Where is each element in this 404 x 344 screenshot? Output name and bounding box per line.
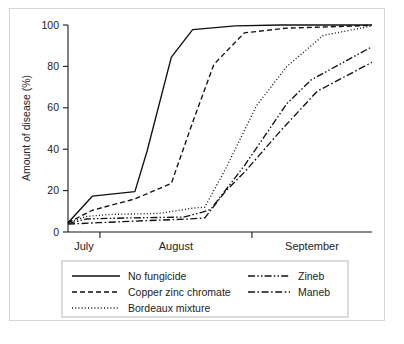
y-axis-tick-labels: 020406080100 — [41, 19, 59, 238]
data-series-group — [68, 25, 372, 224]
x-category-label-august: August — [159, 240, 193, 252]
y-tick-label: 40 — [47, 143, 59, 155]
y-tick-label: 0 — [53, 226, 59, 238]
x-category-label-september: September — [285, 240, 339, 252]
legend: No fungicideCopper zinc chromateBordeaux… — [62, 261, 348, 317]
axes-group: 020406080100 JulyAugustSeptember — [41, 19, 372, 252]
legend-label-no-fungicide: No fungicide — [128, 270, 187, 282]
chart-canvas: 020406080100 JulyAugustSeptember Amount … — [0, 0, 404, 344]
x-axis-ticks — [100, 232, 252, 238]
y-axis-ticks — [63, 25, 68, 232]
y-axis-title: Amount of disease (%) — [20, 75, 32, 181]
x-axis-category-labels: JulyAugustSeptember — [74, 240, 339, 252]
legend-label-copper-zinc-chromate: Copper zinc chromate — [128, 286, 231, 298]
series-line-no-fungicide — [68, 25, 372, 223]
y-tick-label: 100 — [41, 19, 59, 31]
legend-label-zineb: Zineb — [298, 270, 324, 282]
series-line-maneb — [68, 62, 372, 224]
legend-label-maneb: Maneb — [298, 286, 330, 298]
series-line-zineb — [68, 47, 372, 224]
figure-container: 020406080100 JulyAugustSeptember Amount … — [0, 0, 404, 344]
legend-label-bordeaux-mixture: Bordeaux mixture — [128, 302, 210, 314]
series-line-copper-zinc-chromate — [68, 25, 372, 222]
x-category-label-july: July — [74, 240, 94, 252]
y-tick-label: 60 — [47, 101, 59, 113]
y-tick-label: 20 — [47, 184, 59, 196]
series-line-bordeaux-mixture — [68, 26, 372, 223]
y-tick-label: 80 — [47, 60, 59, 72]
